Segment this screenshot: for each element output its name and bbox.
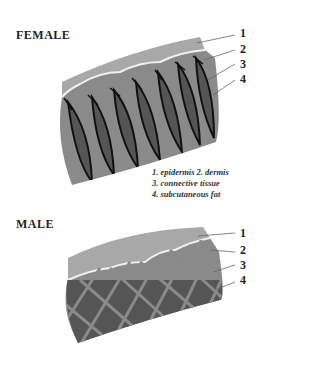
male-skin-section — [60, 227, 235, 350]
female-skin-section — [60, 35, 235, 185]
female-label-4: 4 — [240, 72, 246, 87]
female-label-3: 3 — [240, 57, 246, 72]
legend-line-1: 1. epidermis 2. dermis — [152, 167, 229, 178]
female-label-1: 1 — [240, 26, 246, 41]
legend-line-3: 4. subcutaneous fat — [152, 189, 229, 200]
male-label-4: 4 — [240, 273, 246, 288]
male-label-1: 1 — [240, 226, 246, 241]
female-label-2: 2 — [240, 42, 246, 57]
legend: 1. epidermis 2. dermis 3. connective tis… — [152, 167, 229, 200]
male-label-2: 2 — [240, 243, 246, 258]
legend-line-2: 3. connective tissue — [152, 178, 229, 189]
male-label-3: 3 — [240, 258, 246, 273]
